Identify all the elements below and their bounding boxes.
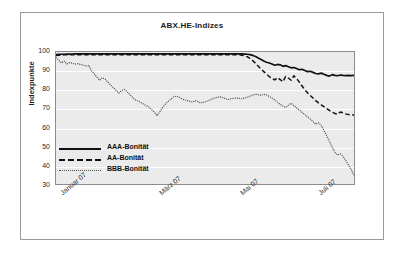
y-tick-label: 80 xyxy=(28,85,50,92)
chart-title: ABX.HE-Indizes xyxy=(0,21,384,30)
legend-label: AA-Bonität xyxy=(107,154,144,161)
y-axis-title: Indexpunkte xyxy=(27,44,36,124)
legend-label: AAA-Bonität xyxy=(107,143,149,150)
y-tick-label: 70 xyxy=(28,104,50,111)
series-line-bbb xyxy=(56,57,354,175)
legend-key-solid xyxy=(59,148,101,150)
y-tick-label: 90 xyxy=(28,66,50,73)
y-tick-label: 30 xyxy=(28,181,50,188)
legend-label: BBB-Bonität xyxy=(107,165,149,172)
y-tick-label: 60 xyxy=(28,124,50,131)
y-tick-label: 100 xyxy=(28,47,50,54)
series-line-aa xyxy=(56,55,354,115)
series-line-aaa xyxy=(56,54,354,76)
chart-figure: ABX.HE-Indizes Indexpunkte 1009080706050… xyxy=(0,0,408,254)
series-layer xyxy=(56,52,354,184)
legend-key-dotted xyxy=(59,170,101,171)
plot-area xyxy=(55,51,355,185)
y-tick-label: 50 xyxy=(28,143,50,150)
y-tick-label: 40 xyxy=(28,162,50,169)
legend-key-dashed xyxy=(59,159,101,161)
